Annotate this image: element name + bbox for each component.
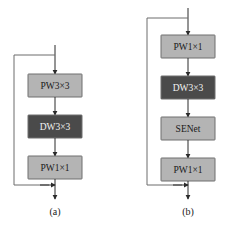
figure-background [0,0,226,228]
panel-a-block-3-label: PW1×1 [40,163,69,173]
figure-root: PW3×3 DW3×3 PW1×1 (a) PW1 [0,0,226,228]
panel-b-block-3-label: SENet [176,124,201,134]
panel-b-block-4-label: PW1×1 [173,165,202,175]
panel-b-caption: (b) [182,206,194,218]
panel-a-caption: (a) [49,206,60,218]
panel-b-block-1-label: PW1×1 [173,42,202,52]
panel-a-block-2-label: DW3×3 [40,122,71,132]
panel-b-block-2-label: DW3×3 [173,83,204,93]
block-diagram-figure: PW3×3 DW3×3 PW1×1 (a) PW1 [0,0,226,228]
panel-a-block-1-label: PW3×3 [40,81,69,91]
